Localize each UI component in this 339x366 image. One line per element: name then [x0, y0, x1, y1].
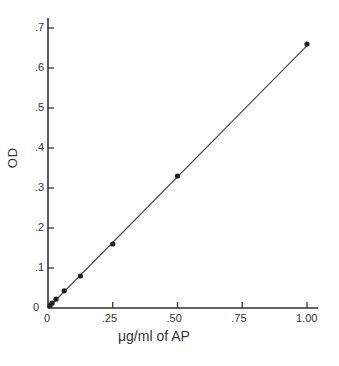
y-axis-label: OD [5, 147, 20, 169]
x-tick-label: .75 [231, 312, 246, 324]
data-point [78, 273, 83, 278]
y-tick-label: .3 [35, 181, 44, 193]
y-tick-label: .4 [35, 141, 44, 153]
data-point [110, 241, 115, 246]
axes [48, 18, 318, 308]
y-tick-label: .6 [35, 61, 44, 73]
y-tick-label: 0 [33, 301, 39, 313]
data-point [49, 301, 54, 306]
y-tick-label: .2 [35, 221, 44, 233]
y-tick-label: .5 [35, 101, 44, 113]
data-point [175, 173, 180, 178]
data-point [304, 41, 309, 46]
y-tick-label: .7 [35, 21, 44, 33]
data-point [53, 297, 58, 302]
x-tick-label: .25 [102, 312, 117, 324]
y-tick-label: .1 [35, 261, 44, 273]
x-axis-label: μg/ml of AP [118, 328, 190, 344]
data-point [62, 288, 67, 293]
x-tick-label: .50 [167, 312, 182, 324]
x-tick-label: 1.00 [296, 312, 317, 324]
x-tick-label: 0 [44, 312, 50, 324]
